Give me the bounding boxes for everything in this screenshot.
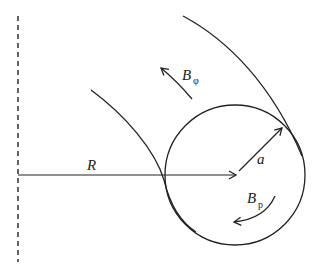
- label-toroidal-field-sub: φ: [193, 75, 199, 86]
- field-line-outer: [183, 16, 302, 156]
- label-poloidal-field-sub: p: [258, 199, 263, 210]
- label-toroidal-field-main: B: [182, 67, 191, 83]
- field-line-inner: [91, 90, 196, 232]
- label-minor-radius: a: [257, 151, 265, 167]
- tokamak-field-diagram: R a B φ B p: [0, 0, 317, 270]
- label-poloidal-field: B p: [247, 189, 263, 210]
- label-poloidal-field-main: B: [247, 190, 256, 206]
- label-major-radius: R: [86, 157, 96, 173]
- label-toroidal-field: B φ: [182, 66, 199, 86]
